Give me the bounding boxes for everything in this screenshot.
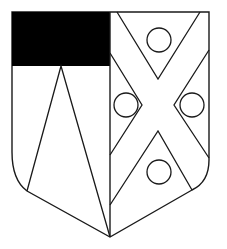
shield-svg: [0, 0, 227, 249]
shield-figure: [0, 0, 227, 249]
canton-sable: [12, 12, 110, 66]
